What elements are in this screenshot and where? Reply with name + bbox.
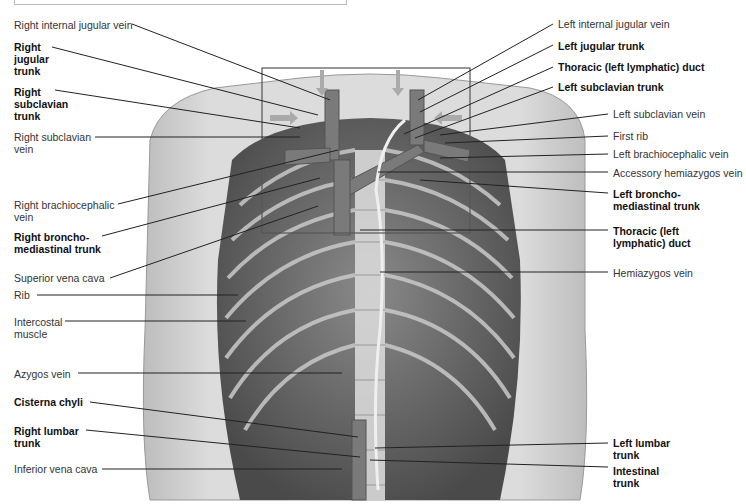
label-text: trunk	[14, 65, 40, 77]
label-text: Rib	[14, 289, 30, 301]
label-text: Left broncho-	[613, 188, 681, 200]
label-text: vein	[14, 211, 33, 223]
label-left-brachiocephalic-vein: Left brachiocephalic vein	[613, 148, 729, 160]
label-text: First rib	[613, 130, 648, 142]
label-left-subclavian-trunk: Left subclavian trunk	[558, 81, 664, 93]
label-left-bronchomediastinal-trunk: Left broncho-mediastinal trunk	[613, 188, 700, 212]
label-inferior-vena-cava: Inferior vena cava	[14, 463, 97, 475]
label-text: Hemiazygos vein	[613, 267, 693, 279]
label-text: lymphatic) duct	[613, 237, 691, 249]
label-text: mediastinal trunk	[14, 243, 101, 255]
label-text: Right subclavian	[14, 131, 91, 143]
label-text: Thoracic (left	[613, 225, 679, 237]
label-thoracic-duct-mid: Thoracic (leftlymphatic) duct	[613, 225, 691, 249]
label-text: Thoracic (left lymphatic) duct	[558, 61, 704, 73]
label-text: Intestinal	[613, 465, 659, 477]
label-text: Accessory hemiazygos vein	[613, 167, 743, 179]
label-text: trunk	[613, 477, 639, 489]
label-text: subclavian	[14, 98, 68, 110]
label-text: Left jugular trunk	[558, 40, 644, 52]
label-accessory-hemiazygos-vein: Accessory hemiazygos vein	[613, 167, 743, 179]
label-right-subclavian-vein: Right subclavianvein	[14, 131, 91, 155]
label-left-subclavian-vein: Left subclavian vein	[613, 108, 705, 120]
anatomy-illustration	[0, 0, 746, 504]
label-intercostal-muscle: Intercostalmuscle	[14, 316, 62, 340]
label-text: Superior vena cava	[14, 272, 104, 284]
label-intestinal-trunk: Intestinaltrunk	[613, 465, 659, 489]
label-superior-vena-cava: Superior vena cava	[14, 272, 104, 284]
label-text: Right	[14, 86, 41, 98]
label-text: Left subclavian trunk	[558, 81, 664, 93]
label-text: Right lumbar	[14, 425, 79, 437]
label-left-jugular-trunk: Left jugular trunk	[558, 40, 644, 52]
label-azygos-vein: Azygos vein	[14, 368, 71, 380]
label-hemiazygos-vein: Hemiazygos vein	[613, 267, 693, 279]
label-text: jugular	[14, 53, 49, 65]
label-left-internal-jugular-vein: Left internal jugular vein	[558, 18, 670, 30]
label-text: Left lumbar	[613, 437, 670, 449]
label-text: Right brachiocephalic	[14, 199, 114, 211]
label-right-jugular-trunk: Rightjugulartrunk	[14, 41, 49, 77]
label-right-lumbar-trunk: Right lumbartrunk	[14, 425, 79, 449]
label-text: muscle	[14, 328, 47, 340]
label-text: Intercostal	[14, 316, 62, 328]
label-right-subclavian-trunk: Rightsubclaviantrunk	[14, 86, 68, 122]
label-right-brachiocephalic-vein: Right brachiocephalicvein	[14, 199, 114, 223]
label-text: Left subclavian vein	[613, 108, 705, 120]
label-text: Cisterna chyli	[14, 396, 83, 408]
label-text: Right broncho-	[14, 231, 89, 243]
label-first-rib: First rib	[613, 130, 648, 142]
label-left-lumbar-trunk: Left lumbartrunk	[613, 437, 670, 461]
label-text: trunk	[14, 437, 40, 449]
label-text: Left brachiocephalic vein	[613, 148, 729, 160]
label-text: Inferior vena cava	[14, 463, 97, 475]
label-text: trunk	[613, 449, 639, 461]
label-text: Azygos vein	[14, 368, 71, 380]
label-right-bronchomediastinal-trunk: Right broncho-mediastinal trunk	[14, 231, 101, 255]
label-text: trunk	[14, 110, 40, 122]
label-text: Left internal jugular vein	[558, 18, 670, 30]
label-text: vein	[14, 143, 33, 155]
label-text: Right internal jugular vein	[14, 19, 132, 31]
label-text: Right	[14, 41, 41, 53]
label-right-internal-jugular-vein: Right internal jugular vein	[14, 19, 132, 31]
label-cisterna-chyli: Cisterna chyli	[14, 396, 83, 408]
label-thoracic-duct-top: Thoracic (left lymphatic) duct	[558, 61, 704, 73]
label-text: mediastinal trunk	[613, 200, 700, 212]
label-rib: Rib	[14, 289, 30, 301]
